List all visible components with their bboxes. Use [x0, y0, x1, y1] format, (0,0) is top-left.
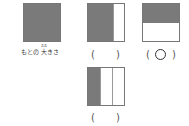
shaded-area — [88, 68, 100, 105]
shaded-area — [24, 4, 60, 41]
original-size-caption: もとの おお大きさ — [21, 47, 59, 56]
shaded-area — [143, 4, 179, 23]
circle-mark-icon — [155, 49, 166, 60]
original-square — [23, 3, 61, 42]
option-a-square — [87, 3, 125, 42]
shaded-area — [88, 4, 113, 41]
divider-line — [113, 4, 114, 41]
divider-line — [112, 68, 113, 105]
option-b-square — [142, 3, 180, 42]
option-c-square — [87, 67, 125, 106]
furigana: おお — [41, 44, 47, 48]
kanji-with-furigana: おお大 — [41, 48, 47, 55]
divider-line — [100, 68, 101, 105]
